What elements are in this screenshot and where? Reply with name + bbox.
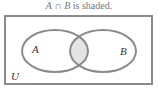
- venn-diagram: A B U: [0, 0, 158, 92]
- set-b-label: B: [120, 45, 127, 57]
- universe-label: U: [11, 70, 20, 82]
- set-a-label: A: [31, 43, 39, 55]
